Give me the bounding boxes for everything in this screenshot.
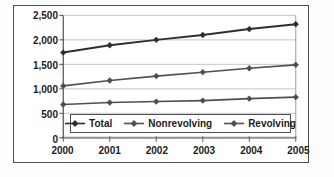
x-axis-tick-label: 2004 <box>228 145 275 156</box>
legend-item-total: Total <box>65 118 112 129</box>
y-axis: 2,500 2,000 1,500 1,000 500 0 <box>14 10 58 145</box>
y-axis-tick-label: 1,500 <box>33 60 58 71</box>
chart-frame: 2,500 2,000 1,500 1,000 500 0 2000 2001 … <box>13 5 309 163</box>
x-axis-tick-label: 2001 <box>86 145 133 156</box>
line-chart <box>14 6 308 162</box>
y-axis-tick-label: 2,500 <box>33 10 58 21</box>
chart-image: 2,500 2,000 1,500 1,000 500 0 2000 2001 … <box>0 0 334 177</box>
y-axis-tick-label: 0 <box>52 134 58 145</box>
chart-legend: Total Nonrevolving Revolving <box>70 114 291 133</box>
diamond-line-marker-icon <box>65 119 85 128</box>
y-axis-tick-label: 2,000 <box>33 35 58 46</box>
x-axis-tick-label: 2000 <box>39 145 86 156</box>
x-axis-tick-label: 2002 <box>133 145 180 156</box>
y-axis-tick-label: 1,000 <box>33 84 58 95</box>
diamond-line-marker-icon <box>124 119 144 128</box>
legend-item-revolving: Revolving <box>224 118 296 129</box>
legend-item-nonrevolving: Nonrevolving <box>124 118 212 129</box>
legend-label: Revolving <box>248 118 296 129</box>
x-axis-tick-label: 2005 <box>275 145 322 156</box>
x-axis: 2000 2001 2002 2003 2004 2005 <box>39 145 322 156</box>
legend-label: Total <box>89 118 112 129</box>
legend-label: Nonrevolving <box>148 118 212 129</box>
diamond-line-marker-icon <box>224 119 244 128</box>
y-axis-tick-label: 500 <box>41 109 58 120</box>
x-axis-tick-label: 2003 <box>181 145 228 156</box>
